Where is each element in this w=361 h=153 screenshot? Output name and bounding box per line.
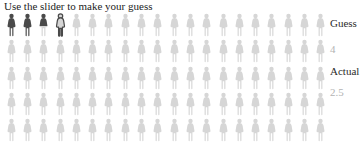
person-icon xyxy=(215,13,231,39)
person-icon xyxy=(166,39,182,65)
person-icon xyxy=(264,66,280,92)
person-icon xyxy=(182,92,198,118)
person-icon xyxy=(264,13,280,39)
person-icon xyxy=(3,92,19,118)
pictograph-grid[interactable] xyxy=(3,13,329,144)
person-icon xyxy=(150,118,166,144)
person-icon xyxy=(150,66,166,92)
person-icon xyxy=(182,118,198,144)
person-icon xyxy=(296,92,312,118)
person-icon xyxy=(247,66,263,92)
person-icon xyxy=(68,92,84,118)
person-icon xyxy=(231,118,247,144)
person-icon xyxy=(150,13,166,39)
person-icon xyxy=(68,39,84,65)
person-icon xyxy=(101,92,117,118)
person-icon xyxy=(19,118,35,144)
person-icon xyxy=(133,13,149,39)
person-icon xyxy=(247,13,263,39)
person-icon xyxy=(19,92,35,118)
instruction-text: Use the slider to make your guess xyxy=(4,0,152,13)
person-icon xyxy=(280,118,296,144)
person-icon xyxy=(166,118,182,144)
person-icon xyxy=(36,118,52,144)
person-icon xyxy=(313,39,329,65)
actual-value: 2.5 xyxy=(330,86,344,98)
person-icon xyxy=(296,66,312,92)
person-icon xyxy=(52,66,68,92)
guess-label: Guess xyxy=(330,17,357,29)
person-icon xyxy=(36,39,52,65)
person-icon xyxy=(231,92,247,118)
person-icon xyxy=(36,66,52,92)
guess-value: 4 xyxy=(330,43,336,55)
person-icon xyxy=(68,66,84,92)
person-icon xyxy=(36,92,52,118)
person-icon xyxy=(280,66,296,92)
person-icon xyxy=(3,39,19,65)
person-icon xyxy=(84,39,100,65)
person-icon xyxy=(52,92,68,118)
person-icon xyxy=(52,118,68,144)
person-icon xyxy=(117,118,133,144)
person-icon xyxy=(215,118,231,144)
person-icon xyxy=(215,39,231,65)
person-icon xyxy=(101,13,117,39)
person-icon xyxy=(166,66,182,92)
person-icon xyxy=(313,92,329,118)
person-icon xyxy=(264,118,280,144)
person-icon xyxy=(231,13,247,39)
person-icon xyxy=(68,118,84,144)
person-icon xyxy=(247,39,263,65)
person-icon xyxy=(19,39,35,65)
person-icon xyxy=(101,66,117,92)
person-icon xyxy=(117,39,133,65)
person-icon xyxy=(199,13,215,39)
person-icon xyxy=(150,39,166,65)
person-icon xyxy=(199,92,215,118)
person-icon xyxy=(133,39,149,65)
person-icon xyxy=(133,118,149,144)
person-icon xyxy=(84,92,100,118)
person-icon xyxy=(133,66,149,92)
person-icon-guess-slider-handle[interactable] xyxy=(52,13,68,39)
person-icon xyxy=(182,13,198,39)
person-icon xyxy=(296,13,312,39)
person-icon xyxy=(296,118,312,144)
person-icon xyxy=(133,92,149,118)
person-icon xyxy=(84,66,100,92)
person-icon xyxy=(199,118,215,144)
person-icon xyxy=(117,92,133,118)
person-icon xyxy=(313,118,329,144)
person-icon xyxy=(166,13,182,39)
person-icon xyxy=(101,39,117,65)
person-icon xyxy=(19,13,35,39)
person-icon xyxy=(247,92,263,118)
person-icon xyxy=(215,92,231,118)
actual-label: Actual xyxy=(330,65,359,77)
person-icon xyxy=(313,13,329,39)
person-icon xyxy=(199,66,215,92)
person-icon xyxy=(215,66,231,92)
person-icon xyxy=(264,39,280,65)
person-icon xyxy=(166,92,182,118)
person-icon xyxy=(84,13,100,39)
person-icon xyxy=(231,39,247,65)
person-icon xyxy=(199,39,215,65)
person-icon xyxy=(313,66,329,92)
person-icon xyxy=(84,118,100,144)
person-icon xyxy=(280,13,296,39)
person-icon xyxy=(280,92,296,118)
person-icon xyxy=(264,92,280,118)
person-icon xyxy=(3,118,19,144)
person-icon xyxy=(280,39,296,65)
person-icon xyxy=(117,66,133,92)
person-icon xyxy=(36,13,52,39)
person-icon xyxy=(247,118,263,144)
person-icon xyxy=(19,66,35,92)
person-icon xyxy=(117,13,133,39)
person-icon xyxy=(182,66,198,92)
person-icon xyxy=(150,92,166,118)
person-icon xyxy=(101,118,117,144)
person-icon xyxy=(231,66,247,92)
